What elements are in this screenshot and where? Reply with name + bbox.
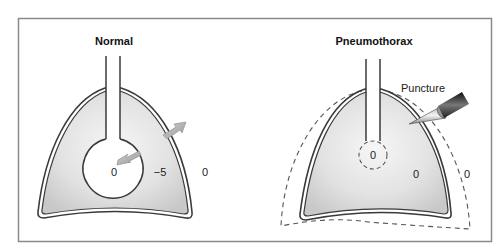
atmospheric-pressure-pneumothorax: 0: [464, 168, 470, 180]
intrapleural-pressure-pneumothorax: 0: [413, 168, 419, 180]
puncture-label: Puncture: [401, 82, 445, 94]
atmospheric-pressure-normal: 0: [202, 166, 208, 178]
intrapleural-pressure-normal: −5: [154, 166, 167, 178]
airway-pneumothorax: [366, 59, 380, 141]
airway-normal: [106, 56, 120, 138]
lung-pressure-diagram: Normal 0 −5 0 Pneumothorax: [0, 0, 503, 252]
panel-title-pneumothorax: Pneumothorax: [335, 35, 413, 47]
alveolar-pressure-pneumothorax: 0: [370, 149, 376, 161]
panel-title-normal: Normal: [95, 35, 133, 47]
alveolar-pressure-normal: 0: [111, 166, 117, 178]
